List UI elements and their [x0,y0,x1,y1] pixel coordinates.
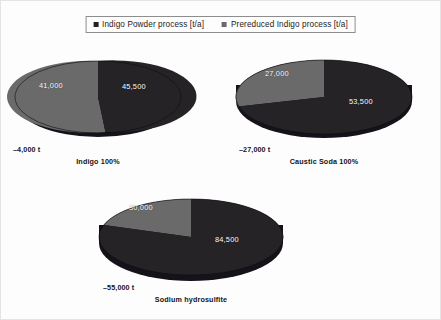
pie-indigo-graphic [9,45,187,143]
pie-caustic-graphic [229,45,419,143]
pie-chart-sodium-hydrosulfite: 84,500 30,000 –55,000 t Sodium hydrosulf… [91,183,291,283]
slice-value-dark: 45,500 [122,82,146,91]
pie-chart-caustic-soda: 53,500 27,000 –27,000 t Caustic Soda 100… [229,45,419,143]
chart-figure: Indigo Powder process [t/a] Prereduced I… [0,0,441,320]
legend-item-prereduced-indigo[interactable]: Prereduced Indigo process [t/a] [222,20,348,29]
slice-value-dark: 84,500 [215,235,239,244]
pie-hydro-graphic [91,183,291,283]
pie-caption: Sodium hydrosulfite [91,295,291,304]
slice-value-gray: 30,000 [129,203,153,212]
legend-swatch-icon [93,22,98,27]
slice-value-gray: 27,000 [265,69,289,78]
slice-value-dark: 53,500 [349,97,373,106]
legend-item-label: Prereduced Indigo process [t/a] [231,20,348,29]
delta-annotation: –55,000 t [103,283,134,292]
legend-item-label: Indigo Powder process [t/a] [102,20,204,29]
delta-annotation: –4,000 t [13,145,40,154]
pie-caption: Indigo 100% [9,157,187,166]
legend-item-indigo-powder[interactable]: Indigo Powder process [t/a] [93,20,204,29]
legend-swatch-icon [222,22,227,27]
pie-caption: Caustic Soda 100% [229,157,419,166]
delta-annotation: –27,000 t [239,145,270,154]
slice-value-gray: 41,000 [39,81,63,90]
chart-legend: Indigo Powder process [t/a] Prereduced I… [85,16,356,33]
pie-chart-indigo: 45,500 41,000 –4,000 t Indigo 100% [9,45,187,143]
